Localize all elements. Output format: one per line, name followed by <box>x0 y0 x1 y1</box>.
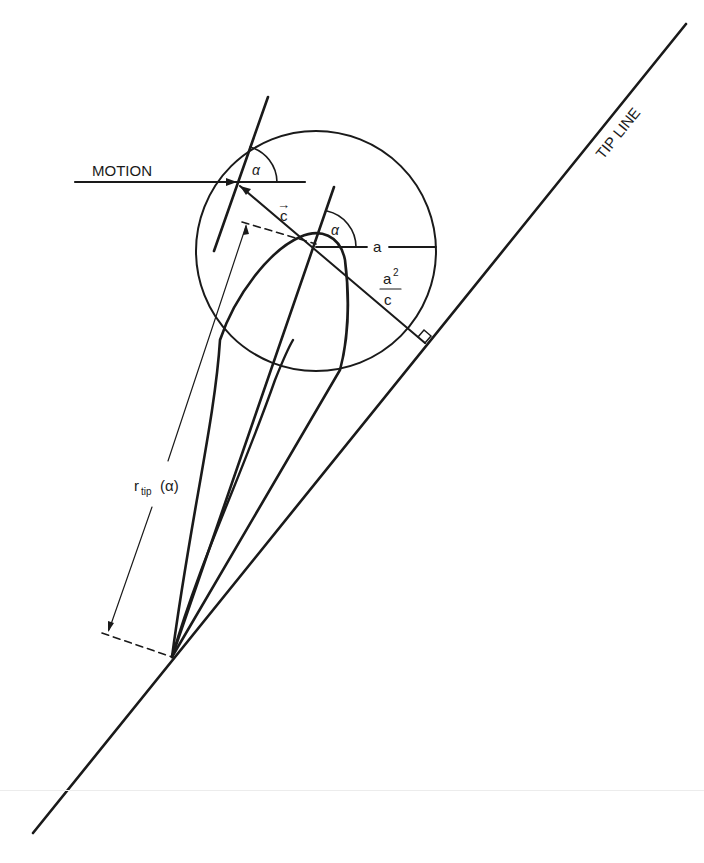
r-tip-arrow-top-icon <box>243 224 249 235</box>
dashed-top-reference <box>242 222 316 244</box>
alpha-label-top: α <box>252 162 261 178</box>
tip-line-label: TIP LINE <box>592 104 643 162</box>
r-tip-dimension-line-upper <box>168 226 246 461</box>
tip-line-diagram: MOTION α α → c a a 2 c r tip (α) TIP LIN… <box>0 0 704 863</box>
r-tip-label: r <box>134 477 139 494</box>
inner-curve <box>172 340 293 657</box>
r-tip-argument: (α) <box>160 477 179 494</box>
radius-a-label: a <box>373 238 382 255</box>
c-vector-label: c <box>280 207 288 224</box>
a-squared-exponent: 2 <box>393 267 399 278</box>
motion-arrowhead-icon <box>226 178 237 186</box>
c-vector-line <box>240 186 425 343</box>
tip-loop-curve <box>172 233 348 657</box>
tip-line <box>33 24 686 833</box>
scan-artifact-line <box>0 790 704 791</box>
diagram-canvas: MOTION α α → c a a 2 c r tip (α) TIP LIN… <box>0 0 704 863</box>
r-tip-arrow-bottom-icon <box>108 621 114 632</box>
alpha-label-center: α <box>331 222 340 238</box>
a-squared-denominator: c <box>384 291 392 308</box>
dashed-bottom-reference <box>102 633 172 657</box>
r-tip-subscript: tip <box>141 486 152 497</box>
motion-label: MOTION <box>92 162 152 179</box>
a-squared-numerator: a <box>383 270 392 287</box>
r-tip-dimension-line-lower <box>109 507 152 630</box>
